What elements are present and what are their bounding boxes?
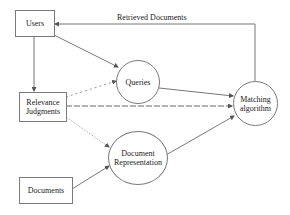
node-relevance-line1: Relevance bbox=[26, 98, 59, 107]
node-documents-label: Documents bbox=[28, 186, 64, 195]
edge-docrep-matching bbox=[166, 116, 234, 155]
edge-queries-matching bbox=[159, 88, 233, 96]
edge-relevance-docrep bbox=[66, 117, 109, 147]
node-queries-label: Queries bbox=[126, 78, 151, 87]
node-queries: Queries bbox=[116, 60, 160, 104]
node-matching-line2: algorithm bbox=[240, 104, 271, 113]
node-docrep-line1: Document bbox=[121, 149, 154, 158]
edge-documents-docrep bbox=[72, 166, 109, 189]
edge-label-retrieved-documents: Retrieved Documents bbox=[117, 13, 187, 22]
node-relevance-line2: Judgments bbox=[26, 107, 60, 116]
edge-users-queries bbox=[54, 35, 118, 67]
edge-relevance-queries bbox=[66, 81, 116, 97]
node-relevance-judgments: Relevance Judgments bbox=[19, 92, 67, 122]
node-users: Users bbox=[15, 10, 55, 37]
node-docrep-line2: Representation bbox=[114, 158, 162, 167]
node-matching-algorithm: Matching algorithm bbox=[233, 81, 278, 126]
node-users-label: Users bbox=[26, 19, 44, 28]
node-matching-line1: Matching bbox=[240, 95, 271, 104]
node-document-representation: Document Representation bbox=[108, 131, 168, 185]
node-documents: Documents bbox=[19, 177, 73, 204]
